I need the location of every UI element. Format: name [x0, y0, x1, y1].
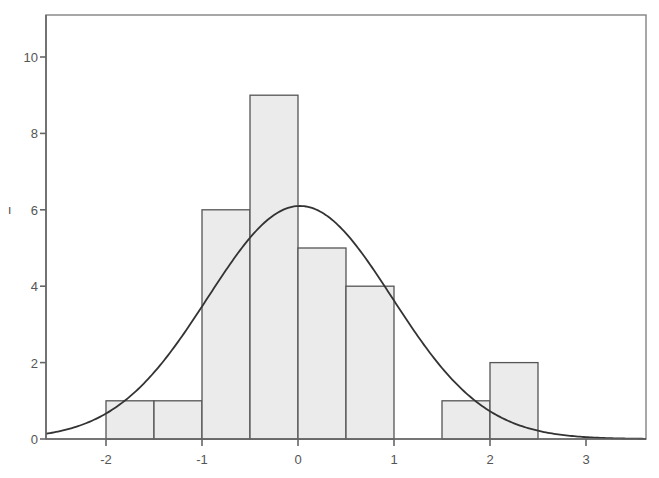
y-tick-label: 8 [31, 126, 38, 141]
x-tick-label: 3 [582, 452, 589, 467]
histogram-bar [346, 286, 394, 439]
x-tick-label: -2 [100, 452, 112, 467]
x-tick-label: 0 [294, 452, 301, 467]
x-tick-label: 2 [486, 452, 493, 467]
histogram-bar [298, 248, 346, 439]
histogram-bar [490, 363, 538, 439]
y-tick-label: 10 [24, 50, 38, 65]
x-tick-label: -1 [196, 452, 208, 467]
y-tick-label: 6 [31, 203, 38, 218]
y-tick-label: 2 [31, 356, 38, 371]
histogram-bar [250, 95, 298, 439]
histogram-bar [154, 401, 202, 439]
y-tick-label: 0 [31, 432, 38, 447]
histogram-chart: 0246810-2-10123 [0, 0, 659, 478]
histogram-bar [202, 210, 250, 439]
y-tick-label: 4 [31, 279, 38, 294]
x-tick-label: 1 [390, 452, 397, 467]
histogram-bar [106, 401, 154, 439]
